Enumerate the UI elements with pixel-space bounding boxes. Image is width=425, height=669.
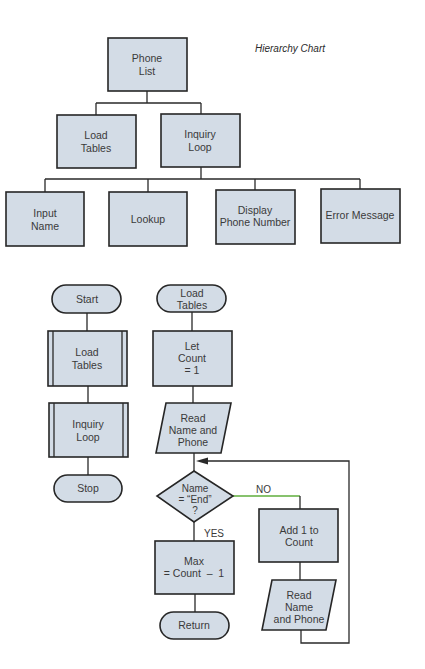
io-label: Phone: [178, 436, 209, 448]
process-label: Count: [285, 536, 313, 548]
terminal-label: Tables: [177, 299, 207, 311]
terminal-label: Load: [180, 287, 204, 299]
decision-label: = “End”: [178, 494, 211, 505]
process-label: Count: [178, 352, 206, 364]
node-load-tables: Load Tables: [57, 115, 136, 168]
process-add-one: Add 1 to Count: [259, 509, 338, 562]
io-label: and Phone: [274, 613, 325, 625]
node-inquiry-loop: Inquiry Loop: [161, 114, 240, 167]
process-label: Loop: [76, 431, 100, 443]
io-label: Name: [285, 601, 313, 613]
load-tables-flowchart: Load Tables Let Count = 1 Read Name and …: [153, 285, 349, 643]
io-label: Read: [180, 412, 205, 424]
node-label: Lookup: [131, 213, 166, 225]
process-max-count: Max = Count – 1: [155, 541, 234, 594]
hierarchy-chart: Hierarchy Chart Phone List Load Tables I…: [6, 38, 400, 246]
node-label: Load: [84, 129, 108, 141]
decision-label: Name: [182, 483, 209, 494]
node-error-message: Error Message: [321, 189, 400, 243]
diagram-canvas: Hierarchy Chart Phone List Load Tables I…: [0, 0, 425, 669]
process-label: Let: [185, 340, 200, 352]
terminal-load-tables: Load Tables: [157, 285, 226, 312]
io-read-name-phone: Read Name and Phone: [156, 403, 231, 453]
hierarchy-chart-title: Hierarchy Chart: [255, 43, 326, 54]
node-display-phone-number: Display Phone Number: [216, 190, 295, 244]
process-inquiry-loop: Inquiry Loop: [49, 403, 128, 457]
process-label: = 1: [185, 364, 200, 376]
process-label: = Count – 1: [164, 567, 225, 579]
node-label: Error Message: [326, 209, 395, 221]
node-phone-list: Phone List: [108, 38, 187, 91]
root-connector: [96, 91, 201, 115]
io-label: Name and: [169, 424, 218, 436]
inquiry-loop-connector: [45, 167, 360, 192]
terminal-stop: Stop: [54, 475, 122, 502]
yes-branch-label: YES: [204, 528, 224, 539]
node-label: Phone: [132, 52, 163, 64]
process-label: Tables: [72, 359, 102, 371]
node-label: Loop: [188, 141, 212, 153]
process-label: Inquiry: [72, 418, 104, 430]
process-label: Add 1 to: [279, 524, 318, 536]
decision-label: ?: [192, 505, 198, 516]
node-label: Input: [33, 207, 56, 219]
terminal-return: Return: [160, 612, 229, 639]
decision-name-end: Name = “End” ?: [157, 471, 233, 522]
process-label: Max: [184, 555, 205, 567]
process-let-count: Let Count = 1: [153, 331, 232, 386]
node-label: Display: [238, 204, 273, 216]
node-lookup: Lookup: [109, 192, 187, 246]
main-flowchart: Start Load Tables Inquiry Loop Stop: [48, 285, 128, 502]
terminal-label: Return: [178, 619, 210, 631]
terminal-label: Stop: [77, 482, 99, 494]
node-input-name: Input Name: [6, 192, 84, 246]
node-label: Phone Number: [220, 216, 291, 228]
node-label: Tables: [81, 142, 111, 154]
io-read-name-phone-loop: Read Name and Phone: [262, 580, 336, 630]
process-load-tables: Load Tables: [48, 331, 127, 386]
terminal-label: Start: [76, 293, 98, 305]
node-label: List: [139, 65, 155, 77]
node-label: Inquiry: [184, 128, 216, 140]
no-branch-label: NO: [256, 484, 271, 495]
loop-arrow-icon: [196, 458, 208, 465]
io-label: Read: [286, 589, 311, 601]
process-label: Load: [75, 346, 99, 358]
terminal-start: Start: [52, 285, 121, 313]
node-label: Name: [31, 220, 59, 232]
